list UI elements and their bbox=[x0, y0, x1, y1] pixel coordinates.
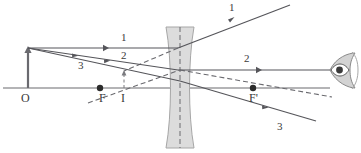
label-image-point-I: I bbox=[121, 92, 125, 104]
label-focal-point-F-prime: F' bbox=[249, 92, 258, 104]
label-ray-1-left: 1 bbox=[121, 32, 127, 43]
ray-diagram-canvas bbox=[0, 0, 361, 153]
label-ray-3-right: 3 bbox=[277, 121, 283, 132]
ray-3-transmitted bbox=[180, 81, 316, 121]
ray-1-refracted-direction-arrow-icon bbox=[228, 17, 235, 23]
ray-3-incident bbox=[28, 48, 180, 81]
optics-ray-diagram-figure: O F I F' 1 1 2 2 3 3 bbox=[0, 0, 361, 153]
label-ray-3-left: 3 bbox=[78, 60, 84, 71]
ray-2-incident bbox=[28, 48, 178, 70]
label-object-point-O: O bbox=[21, 92, 30, 104]
eye-icon bbox=[330, 52, 358, 89]
ray-2-refracted-direction-arrow-icon bbox=[256, 67, 262, 73]
object-arrow-head-icon bbox=[24, 46, 31, 53]
label-ray-2-left: 2 bbox=[121, 50, 127, 61]
label-ray-2-right: 2 bbox=[244, 53, 250, 64]
label-ray-1-right: 1 bbox=[229, 2, 235, 13]
ray-3-direction-arrow-icon bbox=[72, 54, 79, 58]
ray-1-direction-arrow-icon bbox=[103, 45, 109, 51]
label-focal-point-F: F bbox=[99, 92, 106, 104]
